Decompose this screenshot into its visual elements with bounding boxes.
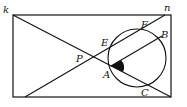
label-n: n — [164, 2, 170, 13]
label-a: A — [102, 69, 110, 80]
circle — [108, 29, 166, 87]
label-b: B — [160, 29, 168, 40]
label-p: P — [75, 53, 83, 64]
geometry-diagram: k n P E F B A C — [0, 0, 187, 107]
label-e: E — [100, 37, 109, 48]
label-c: C — [141, 87, 149, 98]
label-k: k — [3, 4, 9, 15]
label-f: F — [140, 19, 149, 30]
